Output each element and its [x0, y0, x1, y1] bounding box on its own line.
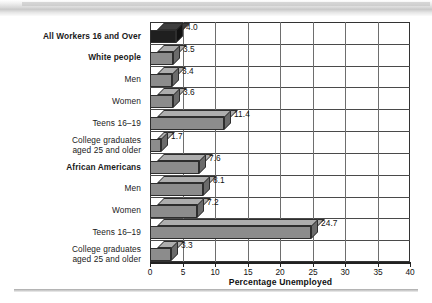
- x-axis: 0510152025303540 Percentage Unemployed: [150, 262, 412, 288]
- bar-front-face: [150, 117, 224, 130]
- category-label-6: African Americans: [66, 163, 141, 173]
- bar-front-face: [150, 74, 172, 87]
- bar-front-face: [150, 226, 311, 239]
- bar-value-label: 3.6: [183, 87, 195, 97]
- bar-value-label: 3.5: [183, 44, 195, 54]
- tick-label: 15: [238, 267, 258, 277]
- bar-front-face: [150, 161, 199, 174]
- tick-label: 20: [270, 267, 290, 277]
- bar-front-face: [150, 95, 173, 108]
- page-edge-artifact-bottom: [14, 289, 418, 292]
- category-label-1: White people: [88, 53, 141, 63]
- bar-value-label: 24.7: [321, 218, 338, 228]
- bar-top-face: [157, 219, 325, 226]
- category-label-0: All Workers 16 and Over: [43, 32, 141, 42]
- bar-front-face: [150, 248, 171, 261]
- bar-front-face: [150, 205, 197, 218]
- bar-value-label: 4.0: [186, 22, 198, 32]
- tick-label: 25: [303, 267, 323, 277]
- bar-value-label: 8.1: [213, 175, 225, 185]
- category-label-3: Women: [112, 97, 141, 107]
- plot-area: 4.03.53.43.611.41.77.68.17.224.73.3: [150, 22, 410, 262]
- bar-value-label: 3.4: [182, 66, 194, 76]
- tick-label: 10: [205, 267, 225, 277]
- category-label-column: All Workers 16 and OverWhite peopleMenWo…: [0, 16, 150, 262]
- tick-label: 30: [335, 267, 355, 277]
- category-label-10: College graduates aged 25 and older: [72, 245, 141, 264]
- bar-value-label: 11.4: [234, 109, 250, 119]
- x-axis-title: Percentage Unemployed: [150, 277, 411, 287]
- tick-label: 40: [400, 267, 420, 277]
- page-edge-artifact-top: [0, 0, 432, 16]
- bar-front-face: [150, 139, 161, 152]
- category-label-5: College graduates aged 25 and older: [72, 136, 141, 155]
- category-label-4: Teens 16–19: [92, 119, 141, 129]
- category-label-8: Women: [112, 206, 141, 216]
- tick-label: 0: [140, 267, 160, 277]
- bars-container: 4.03.53.43.611.41.77.68.17.224.73.3: [150, 22, 410, 262]
- tick-label: 5: [173, 267, 193, 277]
- tick-label: 35: [368, 267, 388, 277]
- category-label-7: Men: [125, 184, 141, 194]
- bar-value-label: 7.6: [209, 153, 221, 163]
- bar-value-label: 7.2: [207, 197, 219, 207]
- bar-value-label: 1.7: [171, 131, 183, 141]
- category-label-9: Teens 16–19: [92, 228, 141, 238]
- bar-front-face: [150, 30, 176, 43]
- category-label-2: Men: [125, 75, 141, 85]
- bar-chart-figure: All Workers 16 and OverWhite peopleMenWo…: [0, 16, 432, 288]
- bar-front-face: [150, 52, 173, 65]
- bar-front-face: [150, 183, 203, 196]
- bar-value-label: 3.3: [181, 240, 193, 250]
